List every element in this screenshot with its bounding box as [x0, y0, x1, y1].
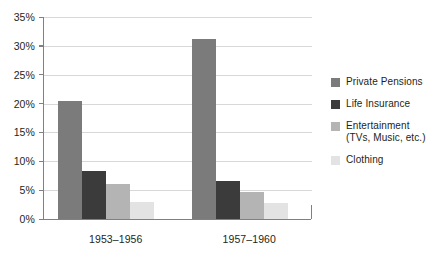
legend-swatch — [331, 156, 340, 165]
bar[interactable] — [264, 203, 288, 219]
legend-item[interactable]: Life Insurance — [331, 98, 437, 110]
bar[interactable] — [130, 202, 154, 219]
legend-swatch — [331, 78, 340, 87]
chart-legend: Private PensionsLife InsuranceEntertainm… — [331, 76, 437, 176]
y-axis-label: 30% — [14, 40, 35, 52]
y-axis-label: 35% — [14, 11, 35, 23]
legend-label-line2: (TVs, Music, etc.) — [346, 132, 426, 144]
y-axis-label: 25% — [14, 69, 35, 81]
y-axis-label: 0% — [20, 213, 35, 225]
bars-container — [44, 17, 178, 219]
bars-container — [178, 17, 312, 219]
plot-area: 0%5%10%15%20%25%30%35% 1953–19561957–196… — [43, 17, 311, 220]
bar[interactable] — [82, 171, 106, 219]
legend-item[interactable]: Entertainment(TVs, Music, etc.) — [331, 120, 437, 144]
legend-item[interactable]: Clothing — [331, 154, 437, 166]
legend-label: Life Insurance — [346, 98, 410, 110]
bar-chart-figure: 0%5%10%15%20%25%30%35% 1953–19561957–196… — [0, 0, 441, 261]
legend-swatch — [331, 122, 340, 131]
y-axis-label: 15% — [14, 126, 35, 138]
bar-group: 1957–1960 — [178, 17, 312, 219]
bar[interactable] — [240, 192, 264, 219]
plot-wrapper: 0%5%10%15%20%25%30%35% 1953–19561957–196… — [43, 17, 311, 220]
legend-label: Entertainment(TVs, Music, etc.) — [346, 120, 426, 144]
legend-item[interactable]: Private Pensions — [331, 76, 437, 88]
y-axis-label: 5% — [20, 184, 35, 196]
legend-label: Private Pensions — [346, 76, 423, 88]
x-axis-label: 1953–1956 — [44, 233, 178, 245]
legend-label: Clothing — [346, 154, 384, 166]
bar-group: 1953–1956 — [44, 17, 178, 219]
y-axis-label: 20% — [14, 98, 35, 110]
bar[interactable] — [216, 181, 240, 219]
bar[interactable] — [106, 184, 130, 219]
x-axis-label: 1957–1960 — [178, 233, 312, 245]
bar-groups: 1953–19561957–1960 — [44, 17, 311, 219]
y-axis-label: 10% — [14, 155, 35, 167]
bar[interactable] — [192, 39, 216, 219]
legend-swatch — [331, 100, 340, 109]
bar[interactable] — [58, 101, 82, 219]
